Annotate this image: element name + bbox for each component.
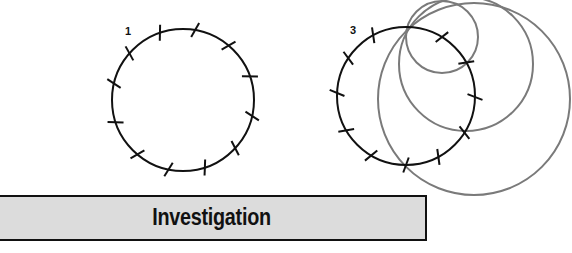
- tick-mark: [372, 27, 374, 43]
- figure-1: 1: [107, 23, 259, 176]
- tick-mark: [437, 149, 439, 165]
- investigation-banner: Investigation: [0, 195, 427, 241]
- banner-title: Investigation: [28, 204, 395, 231]
- figure-3: 3: [330, 0, 570, 195]
- tick-mark: [232, 141, 239, 155]
- figure-3-label: 3: [350, 24, 356, 36]
- figure-3-ticks: [330, 27, 483, 172]
- figure-1-circle: [112, 29, 254, 171]
- tick-mark: [108, 122, 124, 123]
- tick-mark: [205, 160, 206, 176]
- tick-mark: [338, 129, 354, 132]
- tick-mark: [458, 61, 474, 64]
- figure-1-ticks: [107, 23, 259, 176]
- figure-1-label: 1: [125, 25, 131, 37]
